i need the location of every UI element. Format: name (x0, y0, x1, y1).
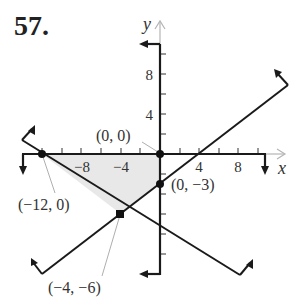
y-axis-label: y (141, 14, 151, 34)
vertex-dot (38, 150, 46, 158)
vertex-label: (0, −3) (171, 176, 215, 194)
vertex-label: (−12, 0) (18, 196, 70, 214)
arrow-down-icon (19, 166, 27, 175)
x-tick-label: 8 (234, 159, 242, 175)
problem-number: 57. (14, 10, 49, 42)
graph-figure: 57. (0, 0, 297, 302)
vertex-dot (156, 150, 164, 158)
coordinate-plane: −8 −4 4 8 8 4 x y (0, 0) (−12, 0) (0, −3… (0, 0, 297, 302)
vertex-label: (0, 0) (96, 127, 131, 145)
y-tick-label: 4 (146, 107, 154, 123)
x-axis-label: x (277, 158, 286, 178)
x-tick-label: 4 (195, 159, 203, 175)
arrow-left-icon (139, 40, 148, 48)
x-tick-label: −4 (113, 159, 129, 175)
x-tick-label: −8 (74, 159, 90, 175)
vertex-dot (116, 210, 124, 218)
arrow-down-icon (261, 166, 269, 175)
arrow-left-icon (139, 270, 148, 278)
vertex-dot (156, 180, 164, 188)
y-tick-label: 8 (146, 67, 154, 83)
vertex-label: (−4, −6) (48, 279, 101, 297)
